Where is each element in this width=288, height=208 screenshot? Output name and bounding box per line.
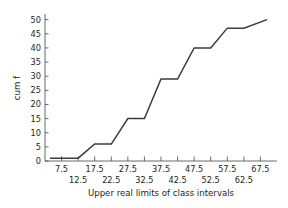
x-tick-label: 42.5 — [168, 175, 186, 185]
y-tick-marks — [45, 20, 49, 161]
x-tick-label: 47.5 — [185, 164, 203, 174]
x-tick-marks — [62, 157, 261, 162]
y-tick-label: 35 — [31, 57, 41, 67]
x-tick-label: 7.5 — [55, 164, 68, 174]
y-tick-label: 40 — [31, 43, 41, 53]
x-tick-label: 32.5 — [135, 175, 153, 185]
y-tick-label: 50 — [31, 15, 41, 25]
y-tick-label: 25 — [31, 85, 41, 95]
y-tick-label: 30 — [31, 71, 41, 81]
y-axis: 05101520253035404550 cum f — [12, 14, 49, 166]
x-tick-label: 17.5 — [86, 164, 104, 174]
y-tick-label: 45 — [31, 29, 41, 39]
x-tick-label: 12.5 — [69, 175, 87, 185]
x-tick-label: 62.5 — [235, 175, 253, 185]
x-tick-labels: 7.512.517.522.527.532.537.542.547.552.55… — [55, 164, 269, 185]
data-series-group — [50, 20, 267, 159]
y-axis-title: cum f — [12, 75, 22, 100]
y-tick-labels: 05101520253035404550 — [31, 15, 41, 166]
x-tick-label: 57.5 — [218, 164, 236, 174]
x-tick-label: 67.5 — [251, 164, 269, 174]
chart-canvas: 05101520253035404550 cum f 7.512.517.522… — [0, 0, 288, 208]
cumulative-frequency-chart: 05101520253035404550 cum f 7.512.517.522… — [0, 0, 288, 208]
y-tick-label: 20 — [31, 99, 41, 109]
y-tick-label: 0 — [36, 156, 41, 166]
x-axis-title: Upper real limits of class intervals — [88, 188, 235, 198]
x-tick-label: 37.5 — [152, 164, 170, 174]
x-axis: 7.512.517.522.527.532.537.542.547.552.55… — [45, 157, 277, 199]
x-tick-label: 52.5 — [202, 175, 220, 185]
y-tick-label: 15 — [31, 114, 41, 124]
cum-f-ogive-line — [50, 20, 267, 159]
y-tick-label: 10 — [31, 128, 41, 138]
x-tick-label: 27.5 — [119, 164, 137, 174]
x-tick-label: 22.5 — [102, 175, 120, 185]
y-tick-label: 5 — [36, 142, 41, 152]
